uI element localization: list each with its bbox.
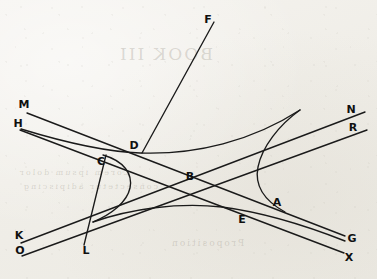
hyperbola-lower bbox=[93, 205, 345, 241]
point-label-l: L bbox=[82, 244, 89, 257]
point-label-f: F bbox=[204, 13, 212, 26]
point-label-x: X bbox=[345, 251, 354, 264]
point-label-n: N bbox=[346, 103, 355, 116]
geometry-diagram: FMNHRDCBAEKGOLX bbox=[0, 0, 377, 279]
point-label-c: C bbox=[97, 155, 105, 168]
point-label-r: R bbox=[349, 121, 358, 134]
point-label-o: O bbox=[15, 244, 24, 257]
line-H-X bbox=[20, 130, 344, 253]
point-label-m: M bbox=[19, 98, 30, 111]
point-label-d: D bbox=[129, 139, 138, 152]
figure-canvas: BOOK III Lorem ipsum dolor consectetur a… bbox=[0, 0, 377, 279]
line-C-L bbox=[84, 155, 106, 245]
point-label-k: K bbox=[15, 229, 24, 242]
point-label-g: G bbox=[347, 232, 356, 245]
point-label-e: E bbox=[238, 213, 246, 226]
point-label-a: A bbox=[273, 196, 282, 209]
line-F-D bbox=[142, 22, 214, 153]
line-O-R bbox=[22, 130, 367, 256]
point-label-b: B bbox=[186, 170, 194, 183]
stroke-layer bbox=[20, 22, 367, 256]
point-label-h: H bbox=[13, 117, 22, 130]
